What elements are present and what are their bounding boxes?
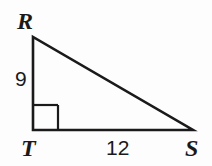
right-angle-marker-icon [33, 105, 58, 130]
vertex-label-r: R [17, 9, 33, 33]
geometry-figure: R T S 9 12 [0, 0, 212, 166]
vertex-label-s: S [185, 136, 198, 160]
side-length-label-ts: 12 [106, 137, 129, 158]
side-length-label-rt: 9 [15, 68, 27, 89]
vertex-label-t: T [21, 136, 36, 160]
